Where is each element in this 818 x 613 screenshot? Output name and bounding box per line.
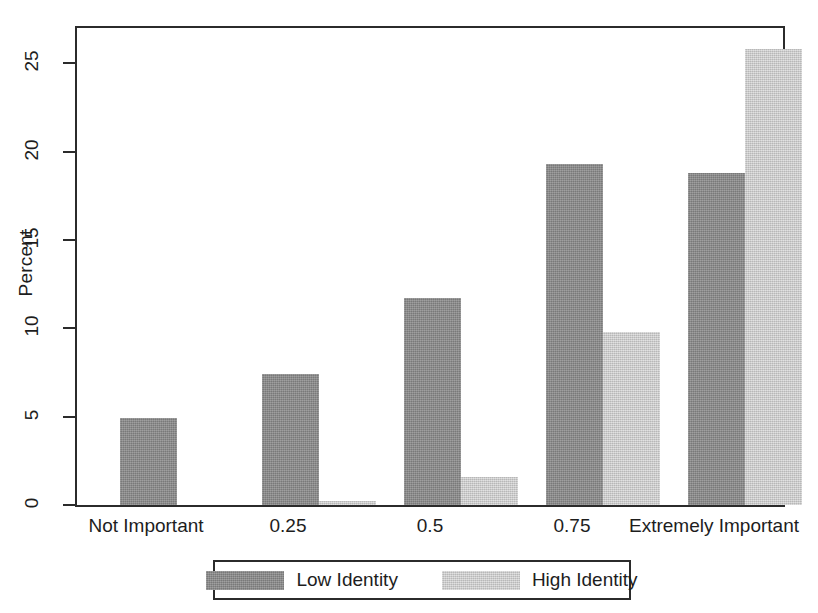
y-tick-mark (63, 504, 75, 506)
legend-entry-low-identity[interactable]: Low Identity (206, 569, 397, 591)
y-tick-label: 10 (21, 303, 43, 349)
y-tick-mark (63, 327, 75, 329)
plot-frame (75, 26, 785, 507)
bar-low-identity-2 (404, 298, 461, 505)
x-tick-label: 0.75 (554, 515, 591, 537)
legend-entry-high-identity[interactable]: High Identity (442, 569, 638, 591)
y-tick-mark (63, 239, 75, 241)
legend-swatch-icon (206, 571, 284, 590)
bar-high-identity-3 (603, 332, 660, 505)
bar-chart-figure: Percent 0510152025 Not Important0.250.50… (0, 0, 818, 613)
bar-low-identity-0 (120, 418, 177, 505)
x-tick-label: 0.5 (417, 515, 443, 537)
x-tick-label: Extremely Important (629, 515, 799, 537)
y-tick-label: 0 (21, 480, 43, 526)
y-tick-mark (63, 62, 75, 64)
bar-low-identity-4 (688, 173, 745, 505)
y-tick-mark (63, 151, 75, 153)
x-tick-label: Not Important (88, 515, 203, 537)
x-tick-label: 0.25 (270, 515, 307, 537)
y-tick-label: 5 (21, 392, 43, 438)
plot-area (77, 28, 783, 505)
bar-high-identity-2 (461, 477, 518, 505)
bar-low-identity-3 (546, 164, 603, 505)
bar-high-identity-4 (745, 49, 802, 505)
y-tick-mark (63, 416, 75, 418)
y-tick-label: 25 (21, 38, 43, 84)
legend-label: Low Identity (296, 569, 397, 591)
legend-swatch-icon (442, 571, 520, 590)
legend-label: High Identity (532, 569, 638, 591)
bar-high-identity-1 (319, 501, 376, 505)
y-tick-label: 15 (21, 215, 43, 261)
bar-low-identity-1 (262, 374, 319, 505)
chart-legend: Low IdentityHigh Identity (213, 560, 631, 600)
y-tick-label: 20 (21, 127, 43, 173)
